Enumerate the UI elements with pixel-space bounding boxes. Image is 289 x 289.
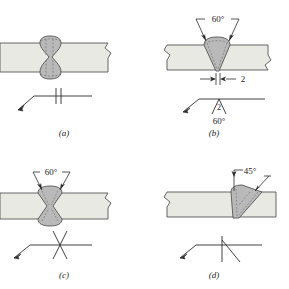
angle-arrowhead-c-right — [60, 183, 65, 190]
double-v-glyph-upper-left — [53, 231, 60, 245]
panel-d: 45° — [164, 166, 276, 262]
panel-caption-a: (a) — [44, 128, 84, 138]
panel-b: 60° 2 2 60° — [164, 14, 271, 126]
panel-caption-d: (d) — [194, 270, 234, 280]
panel-caption-c: (c) — [44, 270, 84, 280]
symbol-arrowhead-a — [18, 105, 24, 111]
symbol-leader-line-d — [180, 245, 196, 258]
symbol-leader-line-b — [183, 99, 199, 112]
weld-symbol-a — [18, 88, 92, 111]
double-v-glyph-upper-right — [60, 231, 67, 245]
groove-angle-label-b: 60° — [212, 14, 225, 24]
panel-a — [0, 36, 111, 111]
root-opening-annotation-b: 2 — [200, 73, 245, 85]
bevel-glyph-diagonal — [222, 240, 240, 262]
symbol-leader-line-c — [14, 245, 30, 258]
weld-symbol-d — [180, 236, 262, 262]
root-arrowhead-right — [220, 77, 226, 82]
welding-joints-figure: 60° 2 2 60° — [0, 0, 289, 289]
panel-caption-b: (b) — [194, 128, 234, 138]
double-v-glyph-lower-left — [53, 245, 60, 259]
weld-symbol-c — [14, 231, 92, 259]
weld-symbol-b: 2 60° — [183, 99, 265, 126]
groove-angle-label-c: 60° — [45, 167, 58, 177]
root-opening-label-b: 2 — [241, 74, 246, 84]
panel-c: 60° — [0, 167, 111, 259]
bevel-angle-label-d: 45° — [244, 166, 257, 176]
groove-angle-symbol-label-b: 60° — [213, 116, 226, 126]
root-opening-symbol-label-b: 2 — [217, 103, 221, 112]
double-v-glyph-lower-right — [60, 245, 67, 259]
